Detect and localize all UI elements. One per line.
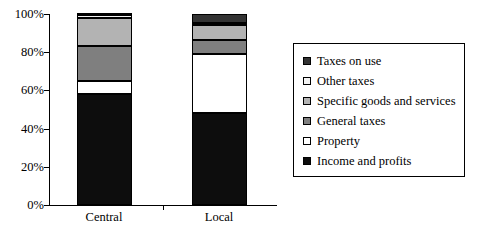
legend-label-general-taxes: General taxes — [317, 115, 385, 128]
y-axis: 0% 20% 40% 60% 80% 100% — [0, 0, 48, 232]
bar-central-seg-specific-goods-and-services — [77, 18, 132, 46]
y-tick-mark-20 — [44, 167, 49, 168]
bar-central-seg-taxes-on-use — [77, 13, 132, 15]
bar-local-seg-specific-goods-and-services — [192, 25, 247, 40]
y-tick-mark-60 — [44, 90, 49, 91]
legend: Taxes on use Other taxes Specific goods … — [293, 43, 465, 177]
bar-local — [192, 14, 247, 205]
bar-central-seg-income-and-profits — [77, 94, 132, 205]
y-tick-mark-40 — [44, 129, 49, 130]
legend-swatch-icon-property — [303, 137, 311, 145]
legend-item-other-taxes: Other taxes — [303, 71, 464, 91]
legend-item-property: Property — [303, 131, 464, 151]
bar-local-seg-taxes-on-use — [192, 14, 247, 23]
bar-local-seg-other-taxes — [192, 23, 247, 25]
legend-item-taxes-on-use: Taxes on use — [303, 51, 464, 71]
legend-swatch-icon-general-taxes — [303, 117, 311, 125]
legend-item-income-and-profits: Income and profits — [303, 151, 464, 171]
legend-item-specific-goods-and-services: Specific goods and services — [303, 91, 464, 111]
legend-label-property: Property — [317, 135, 360, 148]
legend-label-specific-goods-and-services: Specific goods and services — [317, 95, 456, 108]
x-tick-mark-mid — [163, 205, 164, 210]
bar-local-seg-general-taxes — [192, 40, 247, 54]
legend-swatch-icon-other-taxes — [303, 77, 311, 85]
bar-central-seg-general-taxes — [77, 46, 132, 81]
bar-central-seg-property — [77, 81, 132, 94]
x-category-label-central: Central — [86, 211, 123, 224]
bar-local-seg-income-and-profits — [192, 113, 247, 205]
legend-item-general-taxes: General taxes — [303, 111, 464, 131]
y-tick-label-100: 100% — [15, 8, 44, 21]
legend-label-taxes-on-use: Taxes on use — [317, 55, 381, 68]
y-axis-line — [49, 14, 50, 205]
legend-swatch-icon-taxes-on-use — [303, 57, 311, 65]
legend-swatch-icon-income-and-profits — [303, 157, 311, 165]
stacked-bar-chart: 0% 20% 40% 60% 80% 100% Central Local — [0, 0, 478, 232]
y-tick-mark-80 — [44, 52, 49, 53]
bar-local-seg-property — [192, 54, 247, 113]
x-category-label-local: Local — [205, 211, 233, 224]
y-tick-label-80: 80% — [21, 46, 44, 59]
y-tick-label-60: 60% — [21, 84, 44, 97]
y-tick-mark-100 — [44, 14, 49, 15]
y-tick-label-0: 0% — [27, 199, 44, 212]
bar-central — [77, 14, 132, 205]
bar-central-seg-other-taxes — [77, 15, 132, 18]
y-tick-label-20: 20% — [21, 161, 44, 174]
legend-swatch-icon-specific-goods-and-services — [303, 97, 311, 105]
y-tick-label-40: 40% — [21, 122, 44, 135]
legend-label-income-and-profits: Income and profits — [317, 155, 411, 168]
legend-label-other-taxes: Other taxes — [317, 75, 374, 88]
